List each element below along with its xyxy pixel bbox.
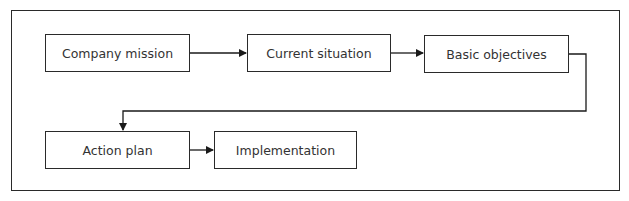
- node-label: Action plan: [82, 143, 152, 158]
- node-basic-objectives: Basic objectives: [424, 35, 569, 73]
- node-current-situation: Current situation: [247, 34, 391, 72]
- node-label: Basic objectives: [446, 47, 547, 62]
- node-company-mission: Company mission: [45, 34, 190, 72]
- node-implementation: Implementation: [214, 131, 357, 169]
- node-label: Implementation: [236, 143, 335, 158]
- node-action-plan: Action plan: [45, 131, 190, 169]
- node-label: Company mission: [62, 46, 173, 61]
- node-label: Current situation: [266, 46, 371, 61]
- connectors: [0, 0, 629, 201]
